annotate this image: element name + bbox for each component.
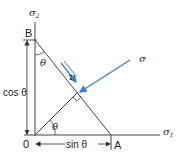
- plane-line-ba: [35, 40, 111, 135]
- point-b-label: B: [25, 27, 32, 39]
- angle-b-label: θ: [40, 57, 46, 68]
- sin-theta-label: sin θ: [66, 139, 88, 150]
- normal-stress-arrow: [80, 60, 130, 92]
- normal-stress-label: σ: [139, 53, 147, 64]
- angle-o-label: θ: [52, 121, 58, 132]
- right-angle-marker: [73, 93, 81, 101]
- stress-diagram: σ2 σ1 B A 0 θ θ cos θ sin θ σ τ: [0, 0, 184, 156]
- point-a-label: A: [114, 139, 122, 151]
- sigma1-label: σ1: [163, 126, 174, 138]
- angle-arc-b: [35, 52, 44, 55]
- shear-stress-label: τ: [68, 71, 74, 82]
- origin-label: 0: [23, 138, 29, 150]
- cos-theta-label: cos θ: [3, 87, 27, 98]
- sigma2-label: σ2: [29, 7, 40, 19]
